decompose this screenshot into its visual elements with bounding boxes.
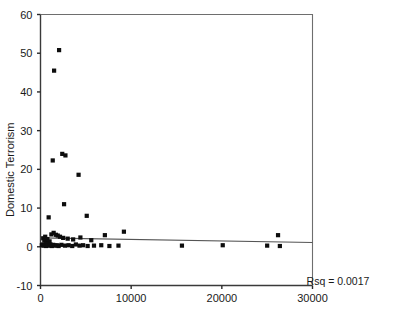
data-point bbox=[76, 173, 80, 177]
data-point bbox=[81, 243, 85, 247]
y-tick-label: 40 bbox=[20, 86, 32, 98]
data-point bbox=[63, 244, 67, 248]
y-tick-label: 10 bbox=[20, 202, 32, 214]
y-tick-label: 60 bbox=[20, 9, 32, 21]
data-point bbox=[116, 244, 120, 248]
data-point bbox=[276, 233, 280, 237]
y-tick-label: 0 bbox=[26, 241, 32, 253]
x-tick-label: 0 bbox=[37, 292, 43, 304]
data-point bbox=[63, 153, 67, 157]
data-point bbox=[47, 215, 51, 219]
scatter-plot-figure: -100102030405060 0100002000030000 Domest… bbox=[0, 0, 397, 317]
data-point bbox=[122, 230, 126, 234]
data-point bbox=[62, 202, 66, 206]
x-tick-label: 30000 bbox=[297, 292, 328, 304]
data-point bbox=[61, 236, 65, 240]
x-tick-label: 10000 bbox=[116, 292, 147, 304]
y-tick-label: 20 bbox=[20, 163, 32, 175]
data-point bbox=[180, 244, 184, 248]
data-point bbox=[89, 238, 93, 242]
data-point bbox=[85, 214, 89, 218]
data-point bbox=[57, 48, 61, 52]
data-point bbox=[59, 243, 63, 247]
data-point bbox=[107, 244, 111, 248]
data-point bbox=[265, 244, 269, 248]
data-point bbox=[99, 243, 103, 247]
data-point bbox=[77, 244, 81, 248]
data-point bbox=[278, 244, 282, 248]
data-point bbox=[92, 244, 96, 248]
plot-canvas: -100102030405060 0100002000030000 Domest… bbox=[0, 0, 397, 317]
y-axis-title: Domestic Terrorism bbox=[4, 122, 16, 217]
y-tick-label: 50 bbox=[20, 47, 32, 59]
data-point bbox=[67, 243, 71, 247]
data-point bbox=[103, 233, 107, 237]
data-point bbox=[66, 237, 70, 241]
data-point bbox=[52, 69, 56, 73]
y-tick-label: 30 bbox=[20, 125, 32, 137]
data-point bbox=[71, 237, 75, 241]
data-point bbox=[221, 243, 225, 247]
data-point bbox=[78, 235, 82, 239]
y-tick-label: -10 bbox=[17, 280, 33, 292]
data-point bbox=[51, 158, 55, 162]
data-point bbox=[74, 242, 78, 246]
x-tick-label: 20000 bbox=[207, 292, 238, 304]
plot-background bbox=[0, 0, 397, 317]
data-point bbox=[70, 244, 74, 248]
rsq-annotation: Rsq = 0.0017 bbox=[307, 275, 370, 287]
data-point bbox=[86, 244, 90, 248]
